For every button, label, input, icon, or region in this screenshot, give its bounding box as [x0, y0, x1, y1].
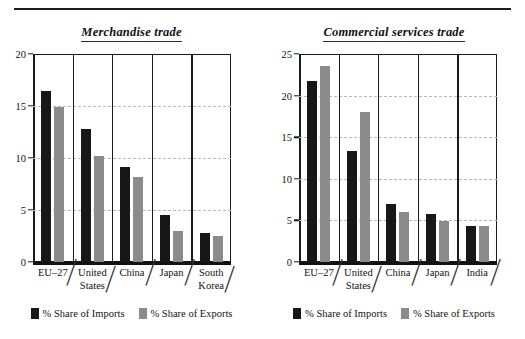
bar-group — [73, 54, 113, 262]
bar-group — [457, 54, 497, 262]
x-axis-label: UnitedStates╱ — [73, 266, 113, 308]
bar-group — [418, 54, 458, 262]
legend-label-exports: % Share of Exports — [413, 308, 495, 319]
x-axis-label: China╱ — [112, 266, 152, 308]
bar — [81, 129, 91, 262]
chart-title-commercial-services-text: Commercial services trade — [323, 25, 464, 42]
bar — [307, 81, 317, 262]
chart-title-merchandise: Merchandise trade — [0, 25, 263, 40]
chart-panels: Merchandise trade 05101520 EU–27╱UnitedS… — [0, 8, 525, 339]
x-axis-labels-merchandise: EU–27╱UnitedStates╱China╱Japan╱SouthKore… — [33, 266, 231, 308]
x-axis-label: EU–27╱ — [33, 266, 73, 308]
x-axis-label: India╱ — [457, 266, 497, 308]
chart-panel-merchandise-trade: Merchandise trade 05101520 EU–27╱UnitedS… — [0, 8, 263, 339]
bar-group — [299, 54, 339, 262]
bar — [479, 226, 489, 262]
bar — [200, 233, 210, 262]
bar-group — [378, 54, 418, 262]
x-axis-label: SouthKorea╱ — [191, 266, 231, 308]
legend-swatch-exports-icon — [401, 308, 409, 319]
legend-label-imports: % Share of Imports — [305, 308, 387, 319]
bar — [54, 107, 64, 262]
legend-item-exports: % Share of Exports — [401, 308, 495, 319]
legend-item-exports: % Share of Exports — [139, 308, 233, 319]
legend-label-exports: % Share of Exports — [151, 308, 233, 319]
bar — [94, 156, 104, 262]
plot-area-merchandise: 05101520 — [33, 54, 231, 262]
legend-label-imports: % Share of Imports — [43, 308, 125, 319]
bar — [320, 66, 330, 262]
bar — [213, 236, 223, 262]
chart-title-merchandise-text: Merchandise trade — [81, 25, 181, 42]
bar — [386, 204, 396, 262]
x-axis-label: Japan╱ — [152, 266, 192, 308]
x-axis-label: Japan╱ — [418, 266, 458, 308]
chart-panel-commercial-services-trade: Commercial services trade 0510152025 EU–… — [263, 8, 525, 339]
x-axis-label: EU–27╱ — [299, 266, 339, 308]
figure-root: Merchandise trade 05101520 EU–27╱UnitedS… — [0, 0, 525, 339]
bar — [347, 151, 357, 262]
bar — [160, 215, 170, 262]
bar — [120, 167, 130, 262]
bar — [173, 231, 183, 262]
bar — [426, 214, 436, 262]
bar-group — [33, 54, 73, 262]
bar-groups — [33, 54, 231, 262]
bar — [439, 221, 449, 262]
bar — [399, 212, 409, 262]
legend-swatch-exports-icon — [139, 308, 147, 319]
chart-title-commercial-services: Commercial services trade — [263, 25, 525, 40]
bar-group — [152, 54, 192, 262]
bar — [41, 91, 51, 262]
category-brace-icon: ╱ — [491, 262, 500, 285]
legend-swatch-imports-icon — [31, 308, 39, 319]
x-axis-labels-commercial-services: EU–27╱UnitedStates╱China╱Japan╱India╱ — [299, 266, 497, 308]
legend-merchandise: % Share of Imports % Share of Exports — [0, 308, 263, 319]
category-brace-icon: ╱ — [225, 269, 234, 292]
bar — [133, 177, 143, 262]
x-axis-label: China╱ — [378, 266, 418, 308]
plot-area-commercial-services: 0510152025 — [299, 54, 497, 262]
bar — [360, 112, 370, 262]
bar-groups — [299, 54, 497, 262]
legend-swatch-imports-icon — [293, 308, 301, 319]
x-axis-label: UnitedStates╱ — [339, 266, 379, 308]
bar-group — [112, 54, 152, 262]
bar — [466, 226, 476, 262]
legend-item-imports: % Share of Imports — [293, 308, 387, 319]
legend-item-imports: % Share of Imports — [31, 308, 125, 319]
bar-group — [191, 54, 231, 262]
bar-group — [339, 54, 379, 262]
legend-commercial-services: % Share of Imports % Share of Exports — [263, 308, 525, 319]
